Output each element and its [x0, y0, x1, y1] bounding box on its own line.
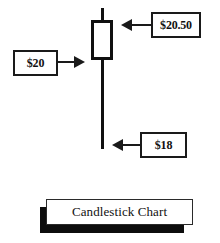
candlestick-chart-figure: $20.50 $20 $18 Candlestick Chart	[0, 0, 220, 243]
callout-low: $18	[140, 132, 187, 158]
arrow-right-icon-open	[74, 56, 85, 68]
chart-title-text: Candlestick Chart	[72, 204, 167, 220]
title-plaque-card: Candlestick Chart	[46, 199, 193, 225]
callout-high: $20.50	[151, 12, 201, 38]
leader-line-high	[132, 24, 152, 26]
candle-body	[91, 20, 113, 60]
arrow-left-icon-low	[112, 139, 123, 151]
callout-open: $20	[13, 50, 58, 76]
leader-line-low	[123, 144, 141, 146]
arrow-left-icon-high	[121, 19, 132, 31]
leader-line-open	[58, 61, 75, 63]
candle-lower-wick	[101, 57, 104, 149]
